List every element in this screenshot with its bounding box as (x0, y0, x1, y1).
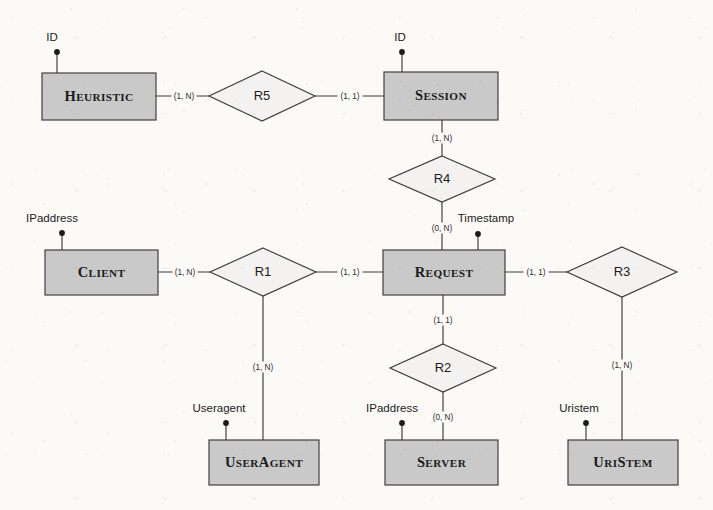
cardinality-label: (0, N) (433, 413, 454, 422)
cardinality-label: (1, 1) (340, 268, 359, 277)
er-diagram-canvas: IDIDIPaddressTimestampUseragentIPaddress… (0, 0, 713, 510)
attribute-dot-icon (59, 230, 65, 236)
attribute-label: ID (394, 31, 406, 43)
cardinality-label: (1, N) (175, 268, 196, 277)
entity-heuristic[interactable]: HEURISTIC (42, 73, 156, 120)
attribute-dot-icon (399, 420, 405, 426)
attribute-label: Timestamp (458, 212, 514, 224)
entity-server[interactable]: SERVER (385, 440, 498, 485)
cardinality-label: (0, N) (432, 224, 453, 233)
attribute-dot-icon (223, 420, 229, 426)
attribute-label: IPaddress (26, 212, 78, 224)
entity-label: HEURISTIC (65, 88, 134, 104)
cardinality-label: (1, 1) (433, 316, 452, 325)
relationship-label: R1 (255, 264, 272, 279)
attribute-label: Useragent (192, 402, 246, 414)
entity-request[interactable]: REQUEST (383, 250, 505, 295)
attribute-dot-icon (475, 231, 481, 237)
entity-label: SESSION (415, 87, 467, 103)
entity-label: CLIENT (78, 264, 126, 280)
relationship-label: R3 (614, 264, 631, 279)
attribute-label: ID (46, 31, 58, 43)
entity-label: USERAGENT (225, 454, 303, 470)
entity-label: URISTEM (593, 454, 652, 470)
relationship-r1[interactable]: R1 (210, 248, 316, 296)
attribute-dot-icon (54, 49, 60, 55)
cardinality-label: (1, 1) (526, 268, 545, 277)
cardinality-label: (1, N) (174, 92, 195, 101)
relationship-label: R2 (435, 360, 452, 375)
cardinality-label: (1, N) (253, 363, 274, 372)
er-diagram: IDIDIPaddressTimestampUseragentIPaddress… (0, 0, 713, 510)
entity-useragent[interactable]: USERAGENT (209, 440, 319, 485)
attribute-label: Uristem (559, 402, 599, 414)
attribute-label: IPaddress (366, 402, 418, 414)
relationship-r2[interactable]: R2 (390, 344, 496, 392)
cardinality-label: (1, N) (612, 361, 633, 370)
relationship-label: R4 (434, 171, 451, 186)
attribute-dot-icon (399, 49, 405, 55)
cardinality-label: (1, N) (432, 134, 453, 143)
cardinality-label: (1, 1) (340, 92, 359, 101)
entity-label: REQUEST (415, 264, 474, 280)
entity-session[interactable]: SESSION (384, 72, 498, 120)
entity-uristem[interactable]: URISTEM (568, 440, 678, 485)
relationship-r3[interactable]: R3 (567, 247, 677, 297)
relationship-r4[interactable]: R4 (389, 156, 495, 202)
entity-client[interactable]: CLIENT (45, 250, 158, 295)
entity-label: SERVER (417, 454, 467, 470)
attribute-dot-icon (583, 420, 589, 426)
relationship-label: R5 (254, 88, 271, 103)
relationship-r5[interactable]: R5 (209, 71, 315, 121)
